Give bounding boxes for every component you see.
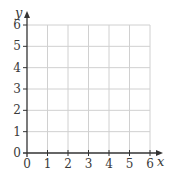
x-tick-label: 4 (105, 157, 113, 171)
x-tick-label: 6 (146, 157, 154, 171)
y-tick-label: 1 (13, 125, 21, 139)
grid-lines (27, 25, 150, 153)
y-axis-ticks: 0123456 (13, 18, 27, 160)
x-tick-label: 1 (44, 157, 52, 171)
x-tick-label: 3 (85, 157, 93, 171)
y-tick-label: 0 (13, 146, 21, 160)
y-tick-label: 6 (13, 18, 21, 32)
x-tick-label: 2 (64, 157, 72, 171)
y-tick-label: 5 (13, 39, 21, 53)
y-tick-label: 2 (13, 103, 21, 117)
x-tick-label: 0 (23, 157, 31, 171)
x-axis-label: x (157, 154, 165, 169)
y-tick-label: 4 (13, 61, 21, 75)
coordinate-grid-chart: 0123456 0123456 x y (0, 0, 172, 179)
x-tick-label: 5 (126, 157, 134, 171)
y-axis-arrow-icon (24, 11, 30, 18)
y-tick-label: 3 (13, 82, 21, 96)
axes (23, 11, 163, 157)
y-axis-label: y (14, 5, 23, 20)
